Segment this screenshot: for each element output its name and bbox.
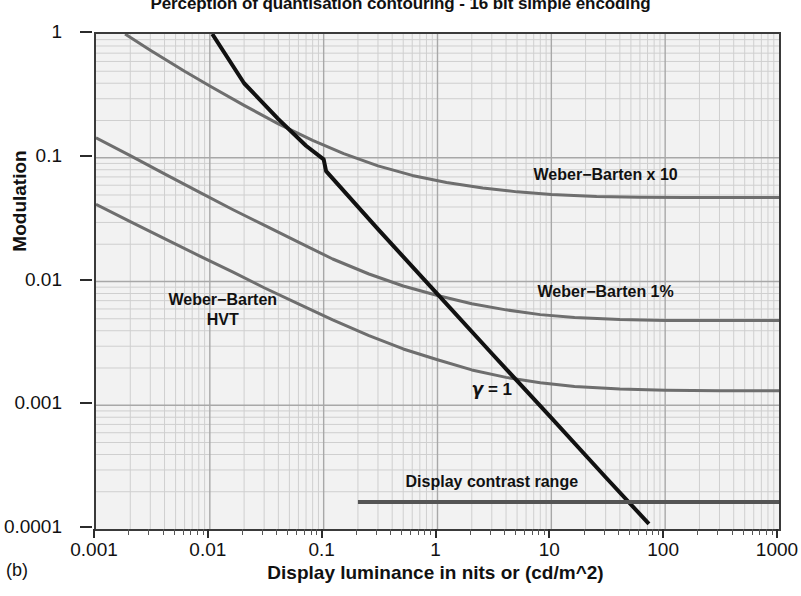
x-tick-minor bbox=[752, 529, 753, 535]
x-tick-mark bbox=[207, 529, 209, 538]
x-tick-label: 0.01 bbox=[189, 539, 226, 561]
x-tick-minor bbox=[242, 529, 243, 535]
x-tick-minor bbox=[418, 529, 419, 535]
y-tick-label: 0.0001 bbox=[4, 516, 62, 538]
annotation-weber-barten-x10: Weber−Barten x 10 bbox=[534, 166, 678, 184]
annotation-weber-barten-1pct: Weber−Barten 1% bbox=[538, 283, 674, 301]
gamma-equation: = 1 bbox=[488, 380, 512, 399]
x-tick-minor bbox=[470, 529, 471, 535]
x-tick-minor bbox=[190, 529, 191, 535]
x-tick-minor bbox=[401, 529, 402, 535]
x-tick-minor bbox=[766, 529, 767, 535]
x-tick-minor bbox=[296, 529, 297, 535]
x-tick-minor bbox=[697, 529, 698, 535]
x-tick-minor bbox=[376, 529, 377, 535]
y-axis-ticks: 0.00010.0010.010.11 bbox=[0, 32, 86, 527]
x-tick-label: 10 bbox=[539, 539, 560, 561]
annotation-display-contrast-range: Display contrast range bbox=[406, 473, 579, 491]
x-tick-mark bbox=[435, 529, 437, 538]
x-tick-minor bbox=[538, 529, 539, 535]
figure-root: Perception of quantisation contouring - … bbox=[0, 0, 801, 596]
annotation-weber-barten-hvt-line2: HVT bbox=[168, 309, 277, 328]
x-tick-mark bbox=[548, 529, 550, 538]
y-tick-label: 0.01 bbox=[25, 269, 62, 291]
x-tick-minor bbox=[629, 529, 630, 535]
x-tick-minor bbox=[424, 529, 425, 535]
y-tick-label: 0.1 bbox=[36, 145, 62, 167]
data-curves bbox=[96, 34, 779, 529]
x-tick-minor bbox=[390, 529, 391, 535]
x-tick-minor bbox=[276, 529, 277, 535]
x-tick-minor bbox=[743, 529, 744, 535]
x-tick-minor bbox=[316, 529, 317, 535]
x-tick-minor bbox=[524, 529, 525, 535]
x-tick-minor bbox=[174, 529, 175, 535]
x-tick-minor bbox=[638, 529, 639, 535]
x-tick-label: 0.001 bbox=[70, 539, 118, 561]
x-tick-minor bbox=[717, 529, 718, 535]
x-tick-minor bbox=[287, 529, 288, 535]
x-tick-minor bbox=[652, 529, 653, 535]
x-tick-mark bbox=[321, 529, 323, 538]
x-tick-minor bbox=[490, 529, 491, 535]
y-tick-label: 0.001 bbox=[14, 392, 62, 414]
x-tick-minor bbox=[163, 529, 164, 535]
x-tick-minor bbox=[148, 529, 149, 535]
y-tick-mark bbox=[80, 526, 92, 528]
x-axis-title: Display luminance in nits or (cd/m^2) bbox=[94, 562, 777, 584]
x-tick-minor bbox=[646, 529, 647, 535]
x-tick-minor bbox=[772, 529, 773, 535]
x-tick-minor bbox=[759, 529, 760, 535]
annotation-weber-barten-hvt-line1: Weber−Barten bbox=[168, 290, 277, 309]
x-tick-minor bbox=[183, 529, 184, 535]
x-tick-minor bbox=[515, 529, 516, 535]
x-tick-mark bbox=[93, 529, 95, 538]
x-tick-minor bbox=[584, 529, 585, 535]
y-tick-mark bbox=[80, 279, 92, 281]
x-tick-minor bbox=[410, 529, 411, 535]
x-tick-minor bbox=[544, 529, 545, 535]
x-tick-minor bbox=[604, 529, 605, 535]
x-tick-minor bbox=[430, 529, 431, 535]
x-tick-minor bbox=[504, 529, 505, 535]
series-gamma-1 bbox=[212, 34, 649, 524]
y-tick-label: 1 bbox=[51, 21, 62, 43]
panel-label: (b) bbox=[6, 560, 28, 581]
x-tick-minor bbox=[356, 529, 357, 535]
x-tick-label: 0.1 bbox=[308, 539, 334, 561]
y-tick-mark bbox=[80, 31, 92, 33]
series-weber-barten-x-10 bbox=[125, 34, 779, 198]
gamma-symbol: γ bbox=[472, 379, 484, 399]
y-tick-mark bbox=[80, 402, 92, 404]
x-tick-minor bbox=[304, 529, 305, 535]
x-tick-minor bbox=[128, 529, 129, 535]
x-tick-mark bbox=[776, 529, 778, 538]
x-tick-mark bbox=[662, 529, 664, 538]
x-tick-label: 1 bbox=[430, 539, 441, 561]
x-tick-minor bbox=[203, 529, 204, 535]
x-tick-minor bbox=[311, 529, 312, 535]
annotation-gamma: γ = 1 bbox=[472, 379, 512, 400]
annotation-weber-barten-hvt: Weber−Barten HVT bbox=[168, 290, 277, 328]
x-tick-label: 100 bbox=[647, 539, 679, 561]
x-tick-minor bbox=[197, 529, 198, 535]
x-tick-minor bbox=[262, 529, 263, 535]
x-tick-minor bbox=[732, 529, 733, 535]
y-tick-mark bbox=[80, 155, 92, 157]
x-tick-label: 1000 bbox=[756, 539, 798, 561]
x-tick-minor bbox=[658, 529, 659, 535]
chart-title: Perception of quantisation contouring - … bbox=[0, 0, 801, 14]
plot-area: Weber−Barten x 10 Weber−Barten 1% Weber−… bbox=[94, 32, 781, 531]
x-tick-minor bbox=[618, 529, 619, 535]
x-tick-minor bbox=[532, 529, 533, 535]
